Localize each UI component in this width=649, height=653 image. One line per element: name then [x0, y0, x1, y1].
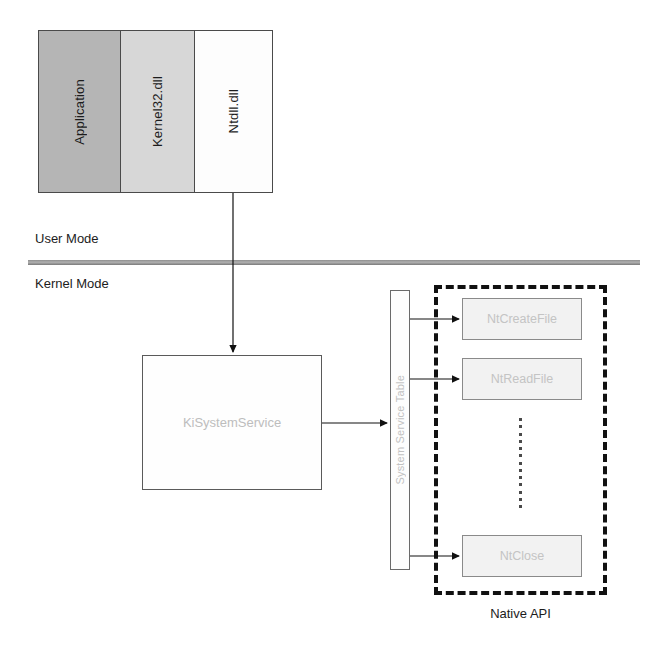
native-routine-box: NtClose	[462, 535, 582, 577]
native-routine-box: NtCreateFile	[462, 298, 582, 340]
stack-panel-ntdll: Ntdll.dll	[195, 31, 272, 192]
system-service-table-label: System Service Table	[394, 375, 406, 485]
native-api-caption: Native API	[434, 606, 607, 621]
stack-panel-application: Application	[39, 31, 121, 192]
stack-panel-label: Kernel32.dll	[150, 76, 165, 147]
kisystemservice-box: KiSystemService	[142, 355, 322, 490]
native-routine-label: NtClose	[500, 549, 544, 563]
user-mode-label: User Mode	[35, 231, 99, 246]
vertical-ellipsis-icon	[518, 418, 523, 508]
mode-divider	[28, 260, 640, 265]
native-routine-box: NtReadFile	[462, 358, 582, 400]
kernel-mode-label: Kernel Mode	[35, 276, 109, 291]
native-routine-label: NtCreateFile	[487, 312, 557, 326]
stack-panel-label: Ntdll.dll	[226, 89, 241, 133]
kisystemservice-label: KiSystemService	[183, 415, 281, 430]
stack-panel-kernel32: Kernel32.dll	[121, 31, 195, 192]
usermode-stack: Application Kernel32.dll Ntdll.dll	[38, 30, 273, 193]
system-service-table-box: System Service Table	[390, 290, 410, 570]
native-routine-label: NtReadFile	[491, 372, 554, 386]
stack-panel-label: Application	[72, 79, 87, 145]
